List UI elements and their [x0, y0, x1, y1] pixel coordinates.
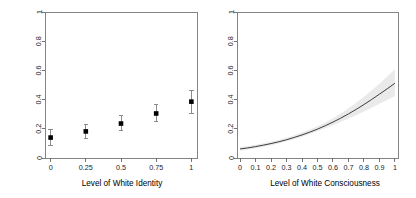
left-axes: [42, 12, 198, 162]
left-x-tick-label: 0.75: [149, 163, 163, 172]
point-estimate-marker: [189, 99, 194, 104]
right-x-tick-label: 0.7: [343, 163, 353, 172]
right-y-tick-label: 0: [227, 156, 236, 160]
right-y-tick-label: 0.6: [227, 65, 236, 75]
right-y-tick-label: 0.2: [227, 124, 236, 134]
right-y-tick-label: 1: [227, 10, 236, 14]
right-x-tick-label: 0.4: [297, 163, 307, 172]
right-x-tick-label: 0.1: [251, 163, 261, 172]
left-y-tick-label: 0.8: [35, 36, 44, 46]
left-x-tick-label: 0: [49, 163, 53, 172]
right-x-tick-label: 0.2: [266, 163, 276, 172]
panel-white-identity: 00.20.40.60.8100.250.50.751 Level of Whi…: [0, 0, 208, 198]
right-x-tick-label: 0.5: [313, 163, 323, 172]
left-y-tick-label: 0.4: [35, 95, 44, 105]
point-estimate-marker: [154, 111, 159, 116]
right-x-tick-label: 0.8: [359, 163, 369, 172]
right-y-tick-label: 0.4: [227, 95, 236, 105]
right-confidence-band: [240, 69, 395, 150]
right-x-tick-label: 0.3: [282, 163, 292, 172]
left-data-points: [48, 90, 193, 145]
right-plot-frame: [237, 12, 398, 158]
right-y-tick-label: 0.8: [227, 36, 236, 46]
confidence-interval-band: [240, 69, 395, 150]
right-x-tick-label: 1: [393, 163, 397, 172]
right-x-tick-label: 0.6: [328, 163, 338, 172]
point-estimate-marker: [119, 121, 124, 126]
left-x-axis-title: Level of White Identity: [82, 179, 163, 188]
figure-container: 00.20.40.60.8100.250.50.751 Level of Whi…: [0, 0, 416, 198]
left-y-tick-label: 0.6: [35, 65, 44, 75]
left-y-tick-label: 0.2: [35, 124, 44, 134]
panel-white-consciousness: 00.20.40.60.8100.10.20.30.40.50.60.70.80…: [208, 0, 416, 198]
left-plot-frame: [45, 12, 197, 158]
left-datapoint-group: [48, 129, 53, 145]
right-x-tick-label: 0.9: [374, 163, 384, 172]
left-datapoint-group: [84, 124, 89, 138]
left-tick-labels: 00.20.40.60.8100.250.50.751: [35, 10, 194, 172]
right-x-axis-title: Level of White Consciousness: [270, 179, 380, 188]
left-datapoint-group: [119, 116, 124, 131]
left-datapoint-group: [154, 105, 159, 122]
point-estimate-marker: [84, 129, 89, 134]
left-datapoint-group: [189, 90, 194, 113]
left-y-tick-label: 0: [35, 156, 44, 160]
right-plot-canvas: 00.20.40.60.8100.10.20.30.40.50.60.70.80…: [208, 0, 416, 198]
left-plot-canvas: 00.20.40.60.8100.250.50.751 Level of Whi…: [0, 0, 208, 198]
right-x-tick-label: 0: [238, 163, 242, 172]
left-x-tick-label: 1: [189, 163, 193, 172]
left-y-tick-label: 1: [35, 10, 44, 14]
right-axes: [234, 12, 399, 162]
left-x-tick-label: 0.5: [116, 163, 126, 172]
point-estimate-marker: [48, 135, 53, 140]
left-x-tick-label: 0.25: [79, 163, 93, 172]
